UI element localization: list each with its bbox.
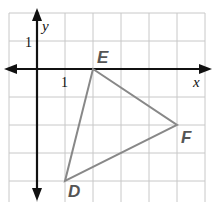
y-tick-label: 1 [25,35,32,50]
grid [9,13,205,202]
x-axis-left-arrow-icon [4,64,17,74]
vertex-label-f: F [181,128,192,147]
vertex-label-e: E [97,48,109,67]
vertex-label-d: D [68,182,80,201]
axes [4,8,212,201]
y-axis-down-arrow-icon [32,188,42,201]
y-axis-label: y [40,18,49,34]
y-axis-up-arrow-icon [32,8,42,21]
x-axis-label: x [192,74,200,90]
coordinate-plane: y x 1 1 E F D [0,0,221,202]
x-tick-label: 1 [61,75,68,90]
